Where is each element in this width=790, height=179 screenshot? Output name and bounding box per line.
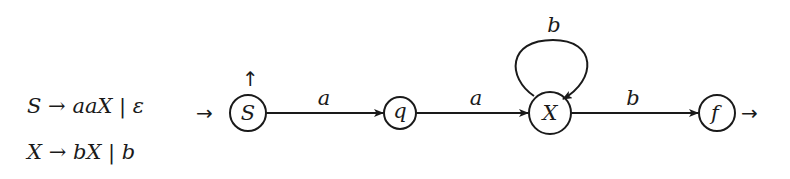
transition-q-X: a	[416, 86, 528, 113]
state-label: f	[709, 101, 722, 125]
state-f: f	[699, 95, 735, 131]
transition-label: b	[547, 13, 560, 37]
state-label: q	[393, 99, 406, 123]
final-state-marker-icon: ↑	[242, 67, 259, 91]
transition-label: b	[626, 86, 639, 110]
state-S: S	[230, 95, 266, 131]
initial-state-marker-icon: →	[196, 101, 213, 125]
state-q: q	[384, 97, 416, 129]
state-label: X	[541, 101, 559, 125]
automaton-diagram: → ↑ S q X f → a a b b	[0, 0, 790, 179]
final-state-marker-icon: →	[741, 101, 758, 125]
transition-X-X-loop: b	[516, 13, 588, 99]
transition-X-f: b	[571, 86, 698, 113]
transition-label: a	[318, 86, 331, 110]
transition-S-q: a	[266, 86, 383, 113]
transition-label: a	[470, 86, 483, 110]
state-label: S	[241, 101, 255, 125]
